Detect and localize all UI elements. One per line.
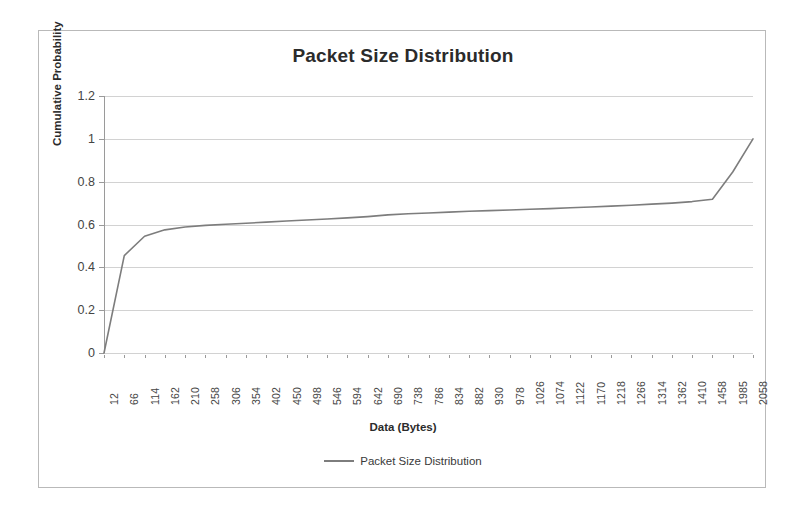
x-tick-mark <box>226 355 227 358</box>
x-tick-mark <box>530 355 531 358</box>
legend-label: Packet Size Distribution <box>360 455 481 467</box>
x-tick-mark <box>449 355 450 358</box>
x-tick-label-546: 546 <box>331 387 343 405</box>
x-tick-mark <box>510 355 511 358</box>
x-tick-mark <box>327 355 328 358</box>
x-tick-mark <box>145 355 146 358</box>
x-tick-mark <box>570 355 571 358</box>
legend-line-swatch <box>324 460 354 462</box>
x-tick-label-690: 690 <box>392 387 404 405</box>
x-tick-mark <box>611 355 612 358</box>
chart-legend: Packet Size Distribution <box>39 455 767 467</box>
x-tick-label-930: 930 <box>493 387 505 405</box>
x-tick-label-882: 882 <box>473 387 485 405</box>
chart-frame: Packet Size Distribution Cumulative Prob… <box>38 30 766 488</box>
y-tick-label-0.8: 0.8 <box>78 175 95 189</box>
x-tick-label-2058: 2058 <box>757 381 769 405</box>
series-packet-size-distribution <box>104 96 753 353</box>
y-tick-label-1: 1 <box>88 132 95 146</box>
x-tick-label-1122: 1122 <box>574 382 586 405</box>
x-tick-label-162: 162 <box>169 387 181 405</box>
x-tick-label-210: 210 <box>189 387 201 405</box>
x-tick-label-1985: 1985 <box>737 381 749 405</box>
x-tick-label-1218: 1218 <box>615 381 627 405</box>
x-tick-labels: 1266114162210258306354402450498546594642… <box>104 355 753 413</box>
x-tick-mark <box>388 355 389 358</box>
gridline-y-0 <box>104 353 753 354</box>
x-tick-mark <box>266 355 267 358</box>
x-tick-mark <box>631 355 632 358</box>
x-axis-title: Data (Bytes) <box>39 421 767 433</box>
x-tick-label-1362: 1362 <box>676 381 688 405</box>
x-tick-label-1458: 1458 <box>716 381 728 405</box>
x-tick-label-1266: 1266 <box>635 381 647 405</box>
x-tick-label-642: 642 <box>372 387 384 405</box>
x-tick-mark <box>469 355 470 358</box>
x-tick-mark <box>591 355 592 358</box>
x-tick-mark <box>246 355 247 358</box>
x-tick-label-114: 114 <box>149 388 161 405</box>
x-tick-mark <box>124 355 125 358</box>
x-tick-mark <box>347 355 348 358</box>
plot-area: 00.20.40.60.811.2 <box>104 96 753 353</box>
x-tick-mark <box>550 355 551 358</box>
x-tick-mark <box>753 355 754 358</box>
x-tick-mark <box>733 355 734 358</box>
x-tick-mark <box>287 355 288 358</box>
y-axis-title: Cumulative Probability <box>51 21 63 146</box>
y-tick-label-1.2: 1.2 <box>78 89 95 103</box>
x-tick-label-594: 594 <box>351 387 363 405</box>
x-tick-mark <box>104 355 105 358</box>
x-tick-mark <box>692 355 693 358</box>
x-tick-mark <box>165 355 166 358</box>
x-tick-label-1170: 1170 <box>595 382 607 405</box>
x-tick-label-1314: 1314 <box>656 381 668 405</box>
y-tick-label-0.2: 0.2 <box>78 303 95 317</box>
x-tick-mark <box>672 355 673 358</box>
x-tick-mark <box>185 355 186 358</box>
x-tick-mark <box>489 355 490 358</box>
y-tick-label-0: 0 <box>88 346 95 360</box>
x-tick-mark <box>712 355 713 358</box>
x-tick-label-834: 834 <box>453 387 465 405</box>
x-tick-label-1026: 1026 <box>534 381 546 405</box>
cdf-curve <box>104 139 753 353</box>
x-tick-label-738: 738 <box>412 387 424 405</box>
x-tick-label-354: 354 <box>250 387 262 405</box>
x-tick-label-66: 66 <box>128 393 140 405</box>
y-tick-label-0.6: 0.6 <box>78 218 95 232</box>
x-tick-label-450: 450 <box>291 387 303 405</box>
x-tick-mark <box>652 355 653 358</box>
x-tick-label-12: 12 <box>108 393 120 405</box>
y-tick-label-0.4: 0.4 <box>78 260 95 274</box>
x-tick-label-306: 306 <box>230 387 242 405</box>
x-tick-label-402: 402 <box>270 387 282 405</box>
x-tick-label-1074: 1074 <box>554 381 566 405</box>
x-tick-label-258: 258 <box>209 387 221 405</box>
chart-title: Packet Size Distribution <box>39 45 767 67</box>
x-tick-mark <box>429 355 430 358</box>
x-tick-label-786: 786 <box>433 387 445 405</box>
page-canvas: Packet Size Distribution Cumulative Prob… <box>0 0 805 515</box>
x-tick-mark <box>307 355 308 358</box>
x-tick-label-1410: 1410 <box>696 381 708 405</box>
x-tick-mark <box>408 355 409 358</box>
x-tick-label-978: 978 <box>514 387 526 405</box>
x-tick-mark <box>205 355 206 358</box>
x-tick-label-498: 498 <box>311 387 323 405</box>
x-tick-mark <box>368 355 369 358</box>
